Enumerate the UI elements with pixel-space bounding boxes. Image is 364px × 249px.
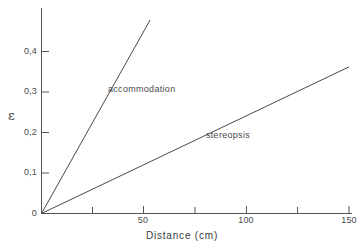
y-tick-label-0.1: 0,1 (15, 167, 37, 177)
y-tick-label-0: 0 (15, 208, 37, 218)
x-tick-label-150: 150 (335, 215, 363, 225)
x-axis-ticks (93, 206, 350, 214)
series-line-accommodation (42, 20, 151, 214)
x-tick-label-50: 50 (129, 215, 157, 225)
chart-figure: 0,4 0,3 0,2 0,1 0 50 100 150 ε Distance … (0, 0, 364, 249)
series-label-accommodation: accommodation (108, 84, 175, 94)
series-line-stereopsis (42, 67, 350, 214)
y-axis-ticks (42, 52, 50, 174)
x-axis-title: Distance (cm) (0, 230, 364, 241)
y-tick-label-0.3: 0,3 (15, 86, 37, 96)
plot-area (0, 0, 364, 249)
y-tick-label-0.4: 0,4 (15, 46, 37, 56)
x-tick-label-100: 100 (232, 215, 260, 225)
y-axis-title: ε (8, 108, 15, 123)
y-tick-label-0.2: 0,2 (15, 127, 37, 137)
series-label-stereopsis: stereopsis (206, 130, 250, 140)
